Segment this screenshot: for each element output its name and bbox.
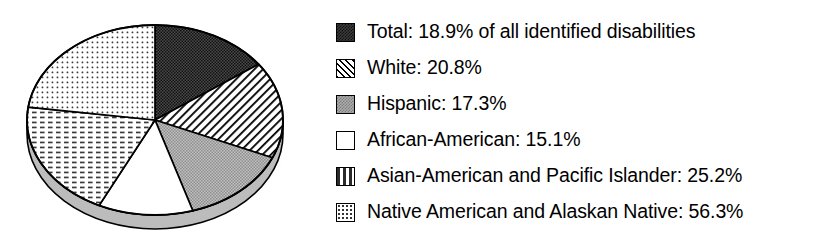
legend-label-asian-american: Asian-American and Pacific Islander: 25.…	[367, 166, 742, 186]
pie-slice[interactable]	[28, 25, 155, 120]
legend-item-white[interactable]: White: 20.8%	[336, 50, 830, 86]
legend-swatch-asian-american	[336, 167, 355, 186]
legend-item-asian-american[interactable]: Asian-American and Pacific Islander: 25.…	[336, 158, 830, 194]
pie-slices	[27, 25, 283, 215]
legend-label-african-american: African-American: 15.1%	[367, 130, 580, 150]
legend-label-native-american: Native American and Alaskan Native: 56.3…	[367, 202, 743, 222]
legend-swatch-hispanic	[336, 95, 355, 114]
legend-swatch-african-american	[336, 131, 355, 150]
legend-item-native-american[interactable]: Native American and Alaskan Native: 56.3…	[336, 194, 830, 230]
chart-legend: Total: 18.9% of all identified disabilit…	[336, 14, 830, 230]
legend-item-total[interactable]: Total: 18.9% of all identified disabilit…	[336, 14, 830, 50]
legend-swatch-total	[336, 23, 355, 42]
legend-label-total: Total: 18.9% of all identified disabilit…	[367, 22, 695, 42]
legend-swatch-native-american	[336, 203, 355, 222]
pie-chart-figure: Total: 18.9% of all identified disabilit…	[0, 0, 830, 243]
legend-label-white: White: 20.8%	[367, 58, 482, 78]
legend-item-african-american[interactable]: African-American: 15.1%	[336, 122, 830, 158]
pie-chart-graphic	[0, 0, 330, 243]
legend-label-hispanic: Hispanic: 17.3%	[367, 94, 506, 114]
pie-svg	[0, 0, 330, 243]
legend-swatch-white	[336, 59, 355, 78]
legend-item-hispanic[interactable]: Hispanic: 17.3%	[336, 86, 830, 122]
